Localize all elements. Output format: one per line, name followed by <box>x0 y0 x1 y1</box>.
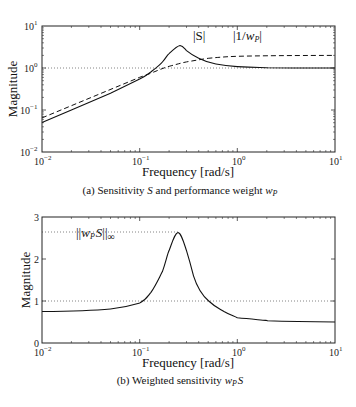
plot-a-annotation-1-over-wp: |1/wP| <box>233 28 262 44</box>
svg-text:100: 100 <box>232 345 246 358</box>
plot-a-x-axis-label: Frequency [rad/s] <box>142 164 234 179</box>
plot-a: 101 100 10−1 10−2 10−2 10−1 100 101 Freq… <box>5 19 343 198</box>
caption-b: (b) Weighted sensitivity wPS <box>117 374 244 388</box>
plot-b-y-tick-labels: 3 2 1 0 <box>34 212 39 349</box>
svg-text:101: 101 <box>329 154 343 167</box>
plot-a-x-minor-ticks <box>42 26 335 152</box>
svg-text:10−2: 10−2 <box>34 345 52 358</box>
svg-text:1: 1 <box>34 296 39 307</box>
svg-text:100: 100 <box>232 154 246 167</box>
figure: 101 100 10−1 10−2 10−2 10−1 100 101 Freq… <box>0 0 356 407</box>
svg-text:10−2: 10−2 <box>34 154 52 167</box>
svg-text:3: 3 <box>34 212 39 223</box>
svg-text:101: 101 <box>24 19 38 32</box>
caption-a: (a) Sensitivity S and performance weight… <box>83 184 278 198</box>
plot-b-y-axis-label: Magnitude <box>18 252 33 309</box>
plot-b: 3 2 1 0 10−2 10−1 100 101 Frequency [rad… <box>18 212 343 388</box>
svg-text:10−1: 10−1 <box>20 103 38 116</box>
plot-a-series-S <box>42 46 335 123</box>
plot-a-annotation-S: |S| <box>193 28 205 43</box>
plot-b-series-wpS <box>42 233 335 323</box>
plot-b-x-axis-label: Frequency [rad/s] <box>142 355 234 370</box>
plot-a-frame <box>42 26 335 152</box>
plot-b-annotation-hinf-norm: ||wPS||∞ <box>76 225 115 242</box>
svg-text:100: 100 <box>24 61 38 74</box>
plot-a-y-axis-label: Magnitude <box>5 61 20 118</box>
plot-a-y-tick-labels: 101 100 10−1 10−2 <box>20 19 38 158</box>
plot-a-series-1-over-wp <box>42 55 335 118</box>
svg-text:101: 101 <box>329 345 343 358</box>
svg-text:2: 2 <box>34 254 39 265</box>
